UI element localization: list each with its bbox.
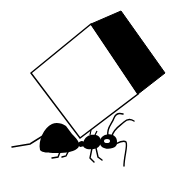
illustration: Black-and-white line illustration of an …	[0, 0, 172, 177]
ant-eye	[104, 139, 110, 143]
ant-cube-drawing	[0, 0, 172, 177]
